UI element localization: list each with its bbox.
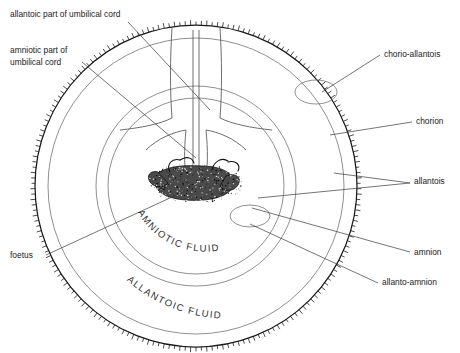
stipple-dot: [210, 191, 211, 192]
stipple-dot: [207, 169, 209, 171]
villus-tick: [81, 303, 85, 307]
stipple-dot: [160, 182, 162, 184]
stipple-dot: [209, 189, 210, 190]
stipple-dot: [225, 185, 227, 187]
stipple-dot: [202, 196, 203, 197]
villus-tick: [243, 28, 244, 32]
villus-tick: [339, 260, 343, 262]
stipple-dot: [166, 196, 167, 197]
label-group-right: chorio-allantois chorion allantois amnio…: [382, 49, 445, 287]
stipple-dot: [171, 174, 172, 175]
villus-tick: [147, 27, 148, 32]
stipple-dot: [188, 198, 189, 199]
villus-tick: [354, 156, 358, 157]
stipple-dot: [171, 185, 172, 186]
stipple-dot: [180, 171, 181, 172]
stipple-dot: [179, 164, 181, 166]
villus-tick: [74, 295, 77, 298]
villus-tick: [291, 316, 294, 320]
stipple-dot: [157, 188, 159, 190]
villus-tick: [42, 246, 46, 248]
stipple-dot: [216, 197, 218, 199]
villus-tick: [40, 130, 44, 132]
leader-allantois-upper: [334, 173, 410, 183]
stipple-dot: [174, 165, 175, 166]
stipple-dot: [239, 179, 240, 180]
label-allanto-amnion: allanto-amnion: [382, 277, 437, 287]
villus-tick: [61, 91, 65, 94]
stipple-dot: [169, 170, 170, 171]
stipple-dot: [182, 191, 183, 192]
stipple-dot: [173, 179, 174, 180]
stipple-dot: [206, 193, 207, 194]
stipple-dot: [213, 168, 214, 169]
stipple-dot: [192, 175, 193, 176]
stipple-dot: [177, 171, 178, 172]
stipple-dot: [179, 184, 180, 185]
stipple-dot: [220, 187, 221, 188]
stipple-dot: [210, 197, 211, 198]
stipple-dot: [229, 185, 230, 186]
foetus-neck: [180, 158, 194, 163]
stipple-dot: [222, 184, 223, 185]
stipple-dot: [191, 191, 192, 192]
villus-tick: [153, 27, 154, 31]
villus-tick: [277, 43, 280, 47]
stipple-dot: [194, 184, 195, 185]
stipple-dot: [202, 172, 203, 173]
stipple-dot: [179, 167, 181, 169]
stipple-dot: [175, 168, 176, 169]
stipple-dot: [168, 175, 169, 176]
villus-tick: [268, 330, 270, 334]
villus-tick: [343, 119, 347, 121]
stipple-dot: [238, 176, 239, 177]
stipple-dot: [223, 180, 224, 181]
villus-tick: [307, 303, 310, 306]
stipple-dot: [206, 178, 207, 179]
villus-tick: [163, 23, 164, 28]
stipple-dot: [218, 180, 219, 181]
stipple-dot: [156, 185, 157, 186]
stipple-dot: [200, 168, 201, 169]
stipple-dot: [154, 176, 155, 177]
stipple-dot: [159, 176, 160, 177]
stipple-dot: [216, 176, 218, 178]
stipple-dot: [183, 182, 184, 183]
stipple-dot: [162, 192, 163, 193]
stipple-dot: [190, 166, 192, 168]
stipple-dot: [224, 191, 225, 192]
stipple-dot: [240, 190, 241, 191]
stipple-dot: [214, 196, 216, 198]
villus-tick: [36, 226, 39, 227]
stipple-dot: [149, 178, 150, 179]
stipple-dot: [187, 174, 188, 175]
stipple-dot: [151, 185, 152, 186]
villus-tick: [352, 226, 355, 227]
villus-tick: [228, 344, 229, 348]
villus-tick: [45, 251, 49, 253]
villus-tick: [349, 135, 354, 137]
stipple-dot: [202, 180, 204, 182]
villus-tick: [217, 22, 218, 26]
stipple-dot: [226, 169, 227, 170]
stipple-dot: [222, 172, 223, 173]
villus-tick: [169, 345, 170, 349]
stipple-dot: [175, 186, 176, 187]
villus-tick: [35, 151, 39, 152]
villus-tick: [328, 278, 331, 280]
villus-tick: [36, 140, 41, 141]
villus-tick: [123, 39, 125, 42]
stipple-dot: [159, 192, 160, 193]
villus-tick: [253, 32, 254, 35]
stipple-dot: [222, 185, 223, 186]
stipple-dot: [195, 196, 196, 197]
stipple-dot: [236, 192, 238, 194]
villus-tick: [142, 30, 143, 34]
stipple-dot: [184, 195, 185, 196]
stipple-dot: [173, 195, 174, 196]
villus-tick: [325, 283, 328, 285]
stipple-dot: [219, 190, 220, 191]
stipple-dot: [184, 180, 185, 181]
stipple-dot: [228, 175, 229, 176]
stipple-dot: [170, 183, 171, 184]
